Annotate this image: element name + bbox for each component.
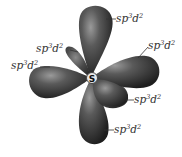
label-mid: d (130, 123, 137, 135)
label-base: sp (148, 39, 160, 51)
label-mid: d (132, 12, 139, 24)
orbital-label-upper-left: sp3d2 (36, 43, 63, 54)
atom-symbol: S (89, 74, 95, 84)
label-sup2: 2 (171, 39, 175, 47)
label-sup2: 2 (34, 59, 38, 67)
label-mid: d (164, 39, 171, 51)
orbital-label-upper-right: sp3d2 (148, 40, 175, 51)
label-base: sp (36, 42, 48, 54)
sulfur-atom: S (87, 73, 98, 84)
label-mid: d (27, 59, 34, 71)
label-sup2: 2 (137, 123, 141, 131)
label-base: sp (11, 59, 23, 71)
orbital-lobe-left (29, 66, 91, 98)
orbital-label-bottom: sp3d2 (114, 124, 141, 135)
orbital-label-top: sp3d2 (116, 13, 143, 24)
label-sup2: 2 (59, 42, 63, 50)
label-mid: d (150, 93, 157, 105)
label-base: sp (134, 93, 146, 105)
label-base: sp (114, 123, 126, 135)
orbital-label-left: sp3d2 (11, 60, 38, 71)
sp3d2-orbital-diagram: S sp3d2 sp3d2 sp3d2 sp3d2 sp3d2 sp3d2 (0, 0, 182, 157)
orbital-illustration: S (0, 0, 182, 157)
label-sup2: 2 (157, 93, 161, 101)
label-sup2: 2 (139, 12, 143, 20)
label-mid: d (52, 42, 59, 54)
orbital-label-lower-right: sp3d2 (134, 94, 161, 105)
label-base: sp (116, 12, 128, 24)
